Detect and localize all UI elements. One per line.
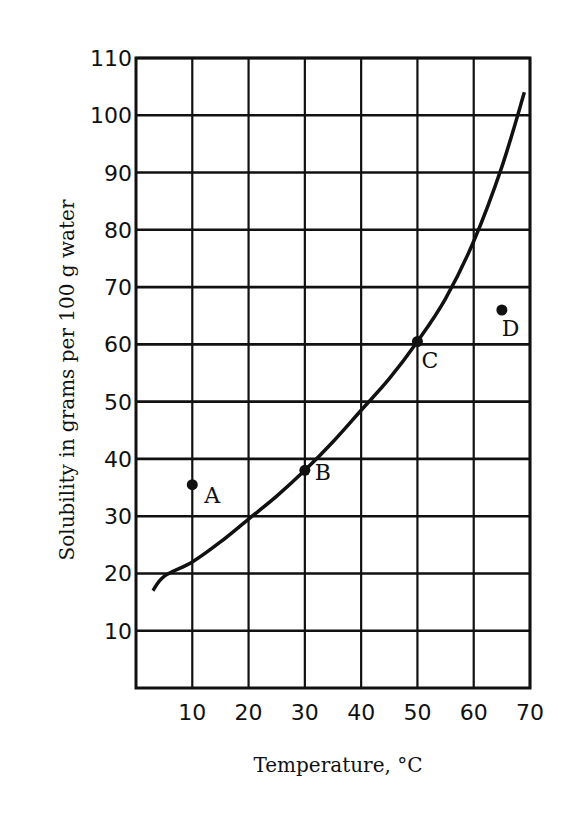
y-tick-label: 90 xyxy=(104,161,132,186)
grid-lines xyxy=(136,58,530,688)
y-tick-label: 60 xyxy=(104,332,132,357)
x-tick-label: 60 xyxy=(460,700,488,725)
y-axis-title: Solubility in grams per 100 g water xyxy=(55,199,79,560)
point-label: A xyxy=(203,483,221,508)
y-tick-label: 50 xyxy=(104,390,132,415)
x-tick-label: 70 xyxy=(516,700,544,725)
y-tick-label: 70 xyxy=(104,275,132,300)
y-tick-label: 10 xyxy=(104,619,132,644)
x-tick-label: 10 xyxy=(178,700,206,725)
x-tick-label: 30 xyxy=(291,700,319,725)
y-tick-label: 40 xyxy=(104,447,132,472)
x-tick-label: 20 xyxy=(235,700,263,725)
data-point-d: D xyxy=(496,305,519,342)
plot-frame xyxy=(136,58,530,688)
y-tick-label: 100 xyxy=(90,103,132,128)
y-tick-label: 30 xyxy=(104,504,132,529)
x-tick-label: 40 xyxy=(347,700,375,725)
point-label: B xyxy=(315,460,331,485)
x-axis-title: Temperature, °C xyxy=(253,753,422,777)
solubility-chart: 102030405060708090100110 10203040506070 … xyxy=(0,0,579,814)
y-tick-label: 20 xyxy=(104,561,132,586)
data-point-c: C xyxy=(412,336,438,373)
data-points: ABCD xyxy=(187,305,520,508)
x-tick-label: 50 xyxy=(403,700,431,725)
y-axis-ticks: 102030405060708090100110 xyxy=(90,46,132,644)
y-tick-label: 110 xyxy=(90,46,132,71)
point-label: C xyxy=(421,348,438,373)
x-axis-ticks: 10203040506070 xyxy=(178,700,544,725)
y-tick-label: 80 xyxy=(104,218,132,243)
point-label: D xyxy=(502,316,520,341)
